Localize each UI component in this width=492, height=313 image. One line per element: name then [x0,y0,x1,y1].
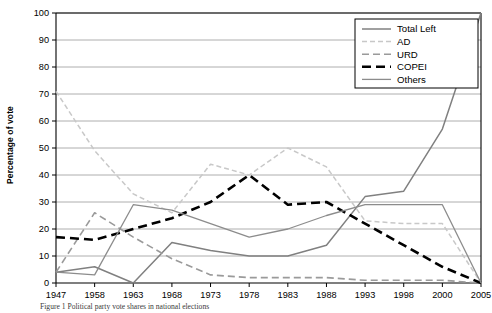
line-chart: 0102030405060708090100 19471958196319681… [0,0,492,313]
y-tick-group: 0102030405060708090100 [34,8,56,288]
x-tick-label: 1978 [239,290,259,300]
legend-label-urd[interactable]: URD [397,49,418,60]
y-tick-label: 20 [39,224,49,234]
figure-container: Percentage of vote 010203040506070809010… [0,0,492,313]
x-tick-label: 2005 [471,290,491,300]
legend-label-ad[interactable]: AD [397,36,410,47]
x-tick-label: 2000 [432,290,452,300]
legend-label-others[interactable]: Others [397,74,426,85]
x-tick-label: 1947 [46,290,66,300]
x-tick-label: 1998 [394,290,414,300]
legend-label-copei[interactable]: COPEI [397,61,427,72]
x-tick-group: 1947195819631968197319781983198819931998… [46,283,491,300]
series-line-others [56,205,481,283]
y-tick-label: 90 [39,35,49,45]
figure-caption: Figure 1 Political party vote shares in … [40,302,480,311]
y-tick-label: 0 [44,278,49,288]
legend[interactable]: Total LeftADURDCOPEIOthers [355,19,478,88]
x-tick-label: 1963 [123,290,143,300]
y-tick-label: 100 [34,8,49,18]
x-tick-label: 1968 [162,290,182,300]
y-tick-label: 60 [39,116,49,126]
y-tick-label: 40 [39,170,49,180]
y-tick-label: 10 [39,251,49,261]
y-tick-label: 80 [39,62,49,72]
x-tick-label: 1958 [84,290,104,300]
y-tick-label: 50 [39,143,49,153]
legend-label-total-left[interactable]: Total Left [397,23,436,34]
x-tick-label: 1988 [316,290,336,300]
y-tick-label: 30 [39,197,49,207]
x-tick-label: 1993 [355,290,375,300]
y-tick-label: 70 [39,89,49,99]
x-tick-label: 1983 [278,290,298,300]
x-tick-label: 1973 [200,290,220,300]
